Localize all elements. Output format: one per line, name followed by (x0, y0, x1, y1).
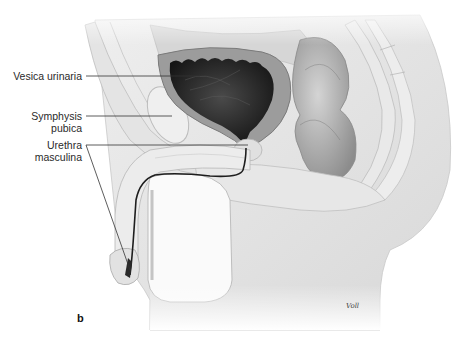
label-urethra-line2: masculina (4, 151, 82, 163)
panel-letter: b (77, 312, 84, 324)
label-symphysis-line1: Symphysis (4, 110, 82, 122)
artist-signature: Voll (346, 302, 359, 310)
pelvis-illustration (0, 0, 469, 342)
scrotum (148, 174, 232, 302)
anatomy-figure: Vesica urinaria Symphysis pubica Urethra… (0, 0, 469, 342)
label-symphysis-pubica: Symphysis pubica (4, 110, 82, 134)
label-urethra-line1: Urethra (4, 139, 82, 151)
label-urethra-masculina: Urethra masculina (4, 139, 82, 163)
label-symphysis-line2: pubica (4, 122, 82, 134)
label-vesica-urinaria: Vesica urinaria (4, 70, 82, 82)
